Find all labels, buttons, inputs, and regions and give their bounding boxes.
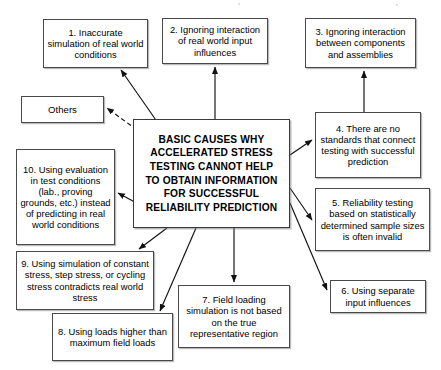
node-cause-7: 7. Field loading simulation is not based… [178, 285, 290, 348]
node-cause-6-label: 6. Using separate input influences [334, 285, 422, 307]
central-node: BASIC CAUSES WHYACCELERATED STRESSTESTIN… [133, 119, 290, 228]
edge-central-to-cause-4 [290, 140, 312, 155]
node-cause-7-label: 7. Field loading simulation is not based… [182, 294, 286, 338]
edge-central-to-cause-5 [290, 188, 312, 220]
node-cause-3: 3. Ignoring interaction between componen… [305, 18, 416, 68]
central-node-label: BASIC CAUSES WHYACCELERATED STRESSTESTIN… [137, 133, 286, 214]
node-cause-5-label: 5. Reliability testing based on statisti… [319, 197, 426, 241]
node-cause-3-label: 3. Ignoring interaction between componen… [309, 26, 412, 59]
node-cause-4-label: 4. There are no standards that connect t… [319, 123, 417, 167]
cause-map-diagram: BASIC CAUSES WHYACCELERATED STRESSTESTIN… [0, 0, 441, 370]
node-cause-2: 2. Ignoring interaction of real world in… [162, 18, 268, 64]
node-others: Others [21, 96, 104, 123]
node-cause-1-label: 1. Inaccurate simulation of real world c… [47, 27, 144, 60]
node-others-label: Others [25, 104, 100, 115]
node-cause-9-label: 9. Using simulation of constant stress, … [20, 258, 150, 302]
edge-central-to-cause-9 [139, 228, 167, 249]
scan-speck [238, 3, 240, 5]
node-cause-10-label: 10. Using evaluation in test conditions … [20, 164, 111, 231]
node-cause-9: 9. Using simulation of constant stress, … [16, 251, 154, 310]
node-cause-1: 1. Inaccurate simulation of real world c… [43, 19, 148, 68]
node-cause-8-label: 8. Using loads higher than maximum field… [56, 326, 169, 348]
edge-central-to-cause-1 [121, 70, 158, 123]
node-cause-2-label: 2. Ignoring interaction of real world in… [166, 24, 264, 57]
node-cause-10: 10. Using evaluation in test conditions … [16, 149, 115, 245]
scan-speck [396, 4, 398, 6]
node-cause-4: 4. There are no standards that connect t… [315, 112, 421, 178]
node-cause-8: 8. Using loads higher than maximum field… [52, 313, 173, 361]
node-cause-6: 6. Using separate input influences [330, 280, 426, 313]
node-cause-5: 5. Reliability testing based on statisti… [315, 188, 430, 251]
